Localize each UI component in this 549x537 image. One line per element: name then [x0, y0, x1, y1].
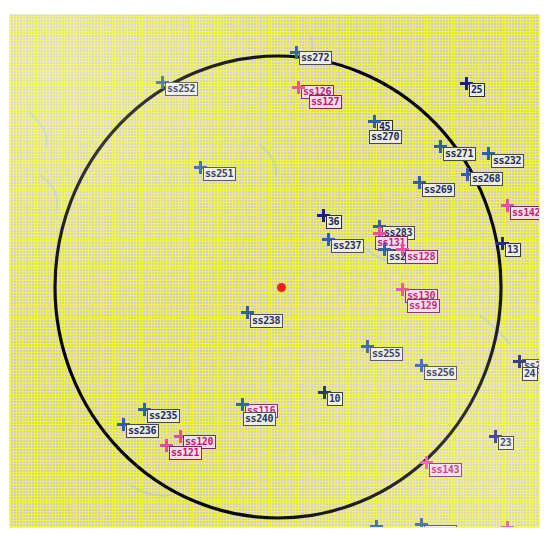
- marker-label[interactable]: ss127: [309, 95, 342, 109]
- marker-label[interactable]: 24: [522, 367, 538, 381]
- cross-marker-icon: [370, 520, 383, 527]
- marker-label[interactable]: ss142: [510, 206, 539, 220]
- map-canvas[interactable]: ss272ss252ss126ss1272545ss270ss271ss232s…: [10, 15, 539, 527]
- marker-label[interactable]: ss129: [407, 299, 440, 313]
- cross-marker-icon: [292, 81, 305, 94]
- marker-label[interactable]: ss235: [147, 409, 180, 423]
- cross-marker-icon: [368, 115, 381, 128]
- marker-label[interactable]: ss232: [491, 154, 524, 168]
- marker-label[interactable]: ss269: [422, 183, 455, 197]
- cross-marker-icon: [501, 521, 514, 527]
- marker-label[interactable]: ss260: [424, 525, 457, 527]
- map-viewport: ss272ss252ss126ss1272545ss270ss271ss232s…: [0, 0, 549, 537]
- marker-label[interactable]: 36: [326, 215, 342, 229]
- marker-label[interactable]: ss255: [370, 347, 403, 361]
- marker-label[interactable]: ss268: [470, 172, 503, 186]
- marker-label[interactable]: ss256: [424, 366, 457, 380]
- marker-label[interactable]: ss236: [126, 424, 159, 438]
- marker-label[interactable]: 23: [498, 436, 514, 450]
- cross-marker-icon: [236, 398, 249, 411]
- vector-overlay-layer: [10, 15, 539, 527]
- marker-label[interactable]: ss238: [250, 314, 283, 328]
- marker-label[interactable]: ss252: [165, 82, 198, 96]
- cross-marker-icon: [396, 283, 409, 296]
- marker-label[interactable]: ss270: [369, 130, 402, 144]
- marker-label[interactable]: 10: [327, 392, 343, 406]
- marker-label[interactable]: ss128: [405, 250, 438, 264]
- center-point-marker[interactable]: [277, 283, 286, 292]
- marker-label[interactable]: ss271: [443, 147, 476, 161]
- marker-label[interactable]: ss240: [243, 412, 276, 426]
- marker-label[interactable]: 13: [505, 243, 521, 257]
- marker-label[interactable]: ss237: [331, 239, 364, 253]
- marker-label[interactable]: ss143: [429, 463, 462, 477]
- marker-label[interactable]: ss272: [299, 51, 332, 65]
- marker-label[interactable]: ss251: [203, 167, 236, 181]
- marker-label[interactable]: ss121: [169, 446, 202, 460]
- marker-label[interactable]: 25: [469, 83, 485, 97]
